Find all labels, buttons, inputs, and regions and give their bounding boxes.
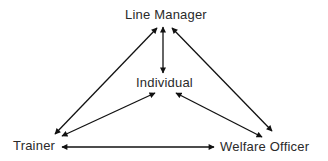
edge-individual-trainer bbox=[62, 93, 155, 136]
node-trainer: Trainer bbox=[13, 139, 55, 153]
node-welfare-officer: Welfare Officer bbox=[220, 140, 309, 154]
relationship-diagram: Line Manager Individual Trainer Welfare … bbox=[0, 0, 328, 161]
node-line-manager: Line Manager bbox=[125, 8, 207, 22]
edge-individual-welfare-officer bbox=[176, 93, 262, 137]
node-individual: Individual bbox=[136, 76, 193, 90]
